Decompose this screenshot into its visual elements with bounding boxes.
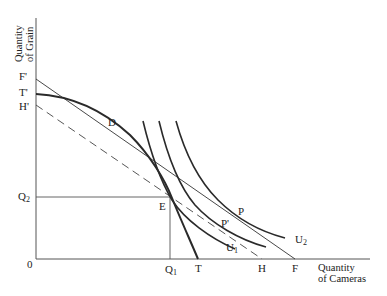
label-t-prime: T' — [19, 86, 28, 98]
label-point-p-prime: P' — [221, 217, 229, 229]
production-possibility-frontier — [36, 94, 198, 259]
label-q2: Q2 — [18, 190, 30, 204]
label-point-d: D — [108, 116, 116, 128]
label-h-prime: H' — [19, 100, 29, 112]
label-f-prime: F' — [19, 70, 27, 82]
svg-text:of Grain: of Grain — [24, 26, 35, 62]
label-t: T — [195, 262, 202, 274]
label-f: F — [292, 262, 298, 274]
x-axis-title-line2: of Cameras — [318, 273, 366, 284]
x-axis-title-line1: Quantity — [318, 262, 355, 273]
label-u1: U1 — [226, 241, 238, 255]
label-point-e: E — [159, 200, 166, 212]
label-q1: Q1 — [165, 263, 177, 277]
y-axis-title: Quantity of Grain — [13, 25, 35, 62]
indifference-curve-u2 — [176, 121, 285, 238]
label-u2: U2 — [295, 233, 307, 247]
label-h: H — [258, 262, 266, 274]
label-point-p: P — [238, 205, 244, 217]
price-line-hh-dashed — [36, 105, 262, 259]
svg-text:Quantity: Quantity — [13, 25, 24, 62]
price-line-ff — [36, 79, 295, 259]
trade-diagram: Quantity of Grain Quantity of Cameras F'… — [0, 0, 387, 296]
label-origin: 0 — [27, 258, 33, 270]
